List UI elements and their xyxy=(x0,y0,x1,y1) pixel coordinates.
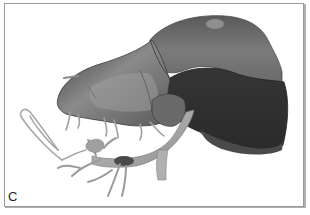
artery-loop xyxy=(21,110,86,160)
panel-label: C xyxy=(8,190,17,203)
middle-lobe xyxy=(152,94,186,126)
liver-rendering xyxy=(0,0,310,215)
